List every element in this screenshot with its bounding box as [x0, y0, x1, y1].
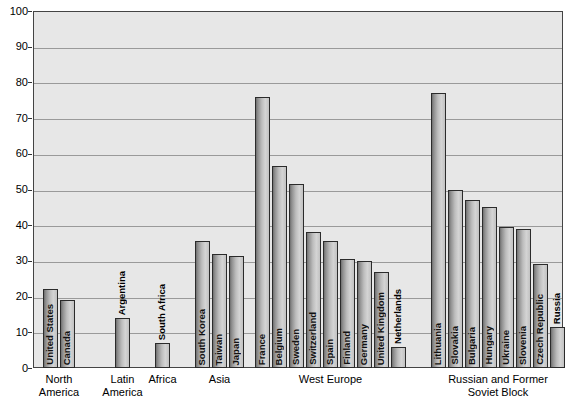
bar[interactable]	[255, 97, 270, 368]
y-axis-tick-label: 60	[0, 148, 28, 159]
bar-label: Netherlands	[393, 289, 403, 344]
y-axis-tick-mark	[28, 190, 32, 191]
bar-label: Slovakia	[450, 326, 460, 365]
bar[interactable]	[550, 327, 565, 368]
y-axis-tick-label: 90	[0, 41, 28, 52]
bar-label: Canada	[62, 331, 72, 365]
y-axis-tick-label: 10	[0, 327, 28, 338]
bar-label: Russia	[552, 293, 562, 324]
bar-label: Argentina	[117, 271, 127, 315]
bar-label: Czech Republic	[535, 294, 545, 365]
bar-label: Japan	[231, 338, 241, 365]
y-axis-tick-mark	[28, 332, 32, 333]
bar-label: France	[257, 334, 267, 365]
bar-chart: 0102030405060708090100 United StatesCana…	[0, 0, 571, 399]
group-label-line: America	[48, 386, 198, 399]
y-axis-tick-label: 40	[0, 220, 28, 231]
y-axis-tick-label: 70	[0, 113, 28, 124]
bar[interactable]	[391, 347, 406, 368]
y-axis-tick-label: 80	[0, 77, 28, 88]
bar-label: United Kingdom	[376, 292, 386, 365]
bar-label: Sweden	[291, 329, 301, 365]
y-axis-tick-label: 30	[0, 255, 28, 266]
y-axis-tick-mark	[28, 154, 32, 155]
y-axis-tick-mark	[28, 118, 32, 119]
y-axis-tick-mark	[28, 297, 32, 298]
y-axis-tick-mark	[28, 261, 32, 262]
bar[interactable]	[155, 343, 170, 368]
bar-label: Taiwan	[214, 334, 224, 366]
bar-label: Hungary	[484, 326, 494, 365]
bar-label: Switzerland	[308, 312, 318, 365]
bar-label: United States	[45, 304, 55, 365]
y-axis-tick-mark	[28, 11, 32, 12]
bar-label: Slovenia	[518, 326, 528, 365]
y-axis-tick-mark	[28, 368, 32, 369]
bar-label: Germany	[359, 324, 369, 365]
bar-label: Finland	[342, 331, 352, 365]
y-axis-tick-mark	[28, 47, 32, 48]
group-label-line: Soviet Block	[423, 386, 571, 399]
bars-layer: United StatesCanadaArgentinaSouth Africa…	[33, 11, 563, 368]
y-axis-tick-label: 100	[0, 6, 28, 17]
group-label-line: Russian and Former	[423, 373, 571, 386]
group-label-line: West Europe	[256, 373, 406, 386]
bar-label: Ukraine	[501, 330, 511, 365]
y-axis-tick-label: 20	[0, 291, 28, 302]
bar[interactable]	[115, 318, 130, 368]
bar-label: Lithuania	[433, 323, 443, 365]
group-label: West Europe	[256, 373, 406, 386]
y-axis-tick-label: 0	[0, 363, 28, 374]
group-label: Russian and FormerSoviet Block	[423, 373, 571, 398]
bar-label: Belgium	[274, 328, 284, 365]
bar-label: Spain	[325, 339, 335, 365]
y-axis-tick-label: 50	[0, 184, 28, 195]
bar-label: South Korea	[197, 309, 207, 365]
bar-label: Bulgaria	[467, 327, 477, 365]
y-axis-tick-mark	[28, 82, 32, 83]
bar-label: South Africa	[157, 284, 167, 340]
y-axis-tick-mark	[28, 225, 32, 226]
